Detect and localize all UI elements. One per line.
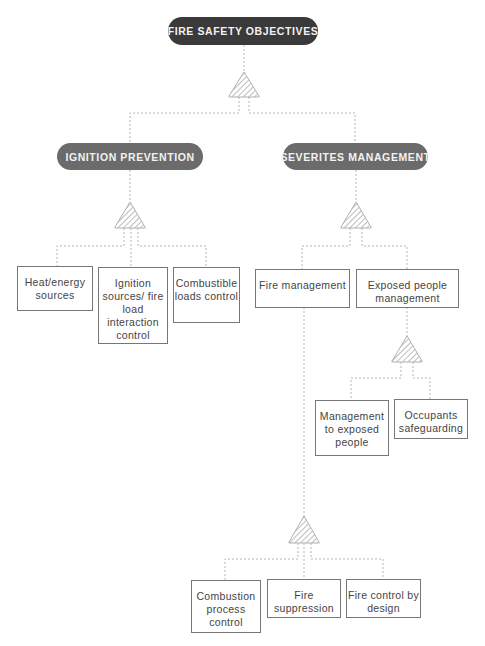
and-gate-icon	[229, 72, 260, 97]
and-gate-icon	[392, 336, 423, 362]
node-fire-management: Fire management	[255, 269, 350, 308]
node-combustible-loads-control: Combustible loads control	[173, 267, 240, 323]
and-gate-icon	[289, 516, 320, 543]
and-gate-icon	[341, 202, 372, 228]
node-fire-suppression: Fire suppression	[267, 579, 341, 618]
node-fire-control-by-design: Fire control by design	[346, 579, 421, 618]
node-management-to-exposed-people: Management to exposed people	[315, 400, 389, 456]
node-combustion-process-control: Combustion process control	[191, 580, 261, 633]
node-exposed-people-management: Exposed people management	[356, 269, 459, 308]
connector-lines	[0, 0, 485, 646]
branch-ignition-prevention: IGNITION PREVENTION	[57, 143, 203, 170]
branch-severities-management: SEVERITES MANAGEMENT	[283, 143, 428, 170]
node-ignition-sources-interaction: Ignition sources/ fire load interaction …	[98, 267, 168, 344]
node-occupants-safeguarding: Occupants safeguarding	[394, 399, 468, 439]
node-heat-energy-sources: Heat/energy sources	[17, 266, 93, 311]
and-gate-icon	[115, 202, 146, 228]
root-node-fire-safety-objectives: FIRE SAFETY OBJECTIVES	[168, 17, 318, 45]
